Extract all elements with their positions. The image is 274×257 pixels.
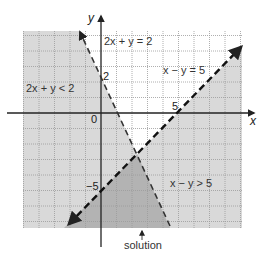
- y-tick-2: 2: [103, 71, 109, 82]
- label-line2: x − y = 5: [163, 65, 205, 76]
- label-line1: 2x + y = 2: [104, 36, 152, 47]
- label-region1: 2x + y < 2: [26, 83, 74, 94]
- label-solution: solution: [124, 240, 162, 251]
- origin-label: 0: [91, 114, 97, 125]
- y-axis-label: y: [88, 12, 94, 24]
- y-tick-minus-5: −5: [86, 181, 99, 192]
- x-axis-label: x: [250, 115, 256, 127]
- x-tick-5: 5: [172, 101, 178, 112]
- label-region2: x − y > 5: [170, 178, 212, 189]
